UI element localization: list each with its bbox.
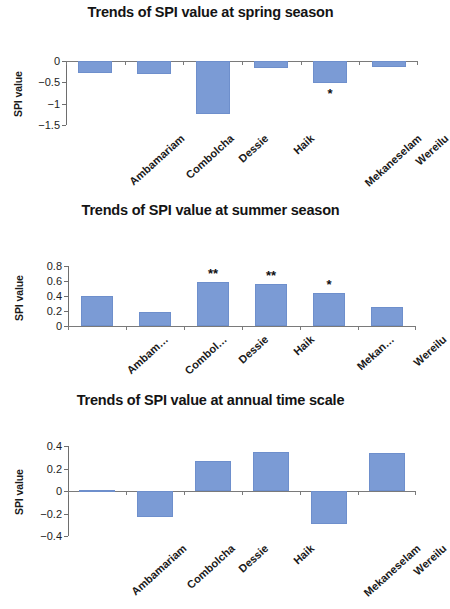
y-axis-title-summer: SPI value xyxy=(13,262,25,334)
x-label-annual-3: Haik xyxy=(291,542,316,566)
plot-area-annual: SPI value 0.40.20−0.2−0.4 AmbamariamComb… xyxy=(0,408,421,604)
plot-area-summer: SPI value 0.80.60.40.20 ***** Ambam…Comb… xyxy=(0,218,421,384)
x-tick-summer-2 xyxy=(184,326,185,330)
x-tick-annual-end xyxy=(415,491,416,495)
x-label-spring-0: Ambamariam xyxy=(127,132,187,188)
bar-annual-0 xyxy=(79,490,115,492)
x-tick-spring-4 xyxy=(301,61,302,65)
x-tick-annual-4 xyxy=(300,491,301,495)
bar-summer-5 xyxy=(371,307,403,326)
x-tick-summer-4 xyxy=(300,326,301,330)
y-axis-title-spring: SPI value xyxy=(12,58,24,130)
chart-annual-time-scale: Trends of SPI value at annual time scale… xyxy=(0,388,421,609)
y-tick-summer-3 xyxy=(64,311,68,312)
y-tick-label-spring-1: −0.5 xyxy=(26,77,60,88)
y-tick-annual-0 xyxy=(64,446,68,447)
bars-summer: ***** xyxy=(68,266,416,326)
x-label-annual-0: Ambamariam xyxy=(129,542,189,598)
chart-title-annual: Trends of SPI value at annual time scale xyxy=(0,392,421,408)
x-tick-spring-3 xyxy=(242,61,243,65)
y-tick-spring-2 xyxy=(62,104,66,105)
y-tick-label-spring-3: −1.5 xyxy=(26,120,60,131)
significance-marker-spring-4: * xyxy=(327,87,332,100)
chart-summer-season: Trends of SPI value at summer season SPI… xyxy=(0,198,421,388)
x-label-summer-2: Dessie xyxy=(236,333,270,366)
bar-spring-0 xyxy=(78,61,112,73)
y-axis-line-summer xyxy=(68,266,69,326)
x-tick-summer-5 xyxy=(358,326,359,330)
y-tick-label-summer-2: 0.4 xyxy=(28,291,62,302)
bar-spring-2 xyxy=(196,61,230,114)
x-tick-spring-5 xyxy=(359,61,360,65)
x-label-summer-5: Wereilu xyxy=(411,333,448,368)
x-tick-annual-2 xyxy=(184,491,185,495)
bar-summer-3 xyxy=(255,284,287,326)
bar-annual-1 xyxy=(137,491,173,517)
bar-spring-4 xyxy=(313,61,347,83)
x-label-spring-2: Dessie xyxy=(236,132,270,165)
x-tick-annual-3 xyxy=(242,491,243,495)
bar-annual-5 xyxy=(369,453,405,491)
y-tick-label-summer-4: 0 xyxy=(28,321,62,332)
x-label-annual-2: Dessie xyxy=(236,542,270,575)
y-tick-label-summer-1: 0.6 xyxy=(28,276,62,287)
x-label-summer-0: Ambam… xyxy=(124,333,170,376)
bar-summer-1 xyxy=(139,312,171,326)
significance-marker-summer-2: ** xyxy=(208,267,218,280)
y-tick-summer-1 xyxy=(64,281,68,282)
y-tick-label-spring-0: 0 xyxy=(26,56,60,67)
x-tick-annual-0 xyxy=(68,491,69,495)
y-tick-label-annual-1: 0.2 xyxy=(28,463,62,474)
x-label-summer-3: Haik xyxy=(291,333,316,357)
x-tick-summer-1 xyxy=(126,326,127,330)
x-label-annual-1: Combolcha xyxy=(184,542,237,591)
bar-summer-2 xyxy=(197,282,229,326)
x-tick-spring-0 xyxy=(66,61,67,65)
y-tick-label-summer-0: 0.8 xyxy=(28,261,62,272)
y-tick-spring-1 xyxy=(62,82,66,83)
y-axis-line-spring xyxy=(66,61,67,125)
y-tick-label-annual-0: 0.4 xyxy=(28,441,62,452)
bars-annual xyxy=(68,446,416,536)
bar-annual-3 xyxy=(253,452,289,491)
chart-spring-season: Trends of SPI value at spring season SPI… xyxy=(0,0,421,195)
y-tick-label-annual-3: −0.2 xyxy=(28,508,62,519)
bar-spring-3 xyxy=(254,61,288,68)
bar-spring-1 xyxy=(137,61,171,74)
x-tick-summer-0 xyxy=(68,326,69,330)
x-label-spring-1: Combolcha xyxy=(183,132,236,181)
y-tick-label-summer-3: 0.2 xyxy=(28,306,62,317)
y-tick-annual-1 xyxy=(64,469,68,470)
x-tick-summer-3 xyxy=(242,326,243,330)
y-tick-summer-2 xyxy=(64,296,68,297)
x-label-summer-1: Combol… xyxy=(182,333,229,377)
x-label-summer-4: Mekan… xyxy=(355,333,397,372)
plot-area-spring: SPI value 0−0.5−1−1.5 * AmbamariamCombol… xyxy=(0,20,421,192)
bar-summer-0 xyxy=(81,296,113,326)
bar-spring-5 xyxy=(372,61,406,67)
chart-title-spring: Trends of SPI value at spring season xyxy=(0,4,421,20)
x-tick-summer-end xyxy=(415,326,416,330)
significance-marker-summer-4: * xyxy=(326,278,331,291)
x-tick-spring-2 xyxy=(183,61,184,65)
bars-spring: * xyxy=(66,61,418,125)
y-axis-title-annual: SPI value xyxy=(13,456,25,528)
y-tick-annual-3 xyxy=(64,514,68,515)
significance-marker-summer-3: ** xyxy=(266,269,276,282)
x-tick-annual-1 xyxy=(126,491,127,495)
bar-annual-2 xyxy=(195,461,231,491)
y-tick-label-spring-2: −1 xyxy=(26,98,60,109)
chart-title-summer: Trends of SPI value at summer season xyxy=(0,202,421,218)
x-tick-spring-1 xyxy=(125,61,126,65)
y-tick-annual-4 xyxy=(64,536,68,537)
y-tick-summer-0 xyxy=(64,266,68,267)
x-label-spring-3: Haik xyxy=(291,132,316,156)
y-tick-label-annual-4: −0.4 xyxy=(28,531,62,542)
y-tick-label-annual-2: 0 xyxy=(28,486,62,497)
bar-annual-4 xyxy=(311,491,347,524)
bar-summer-4 xyxy=(313,293,345,326)
x-tick-spring-end xyxy=(417,61,418,65)
x-tick-annual-5 xyxy=(358,491,359,495)
y-tick-spring-3 xyxy=(62,125,66,126)
